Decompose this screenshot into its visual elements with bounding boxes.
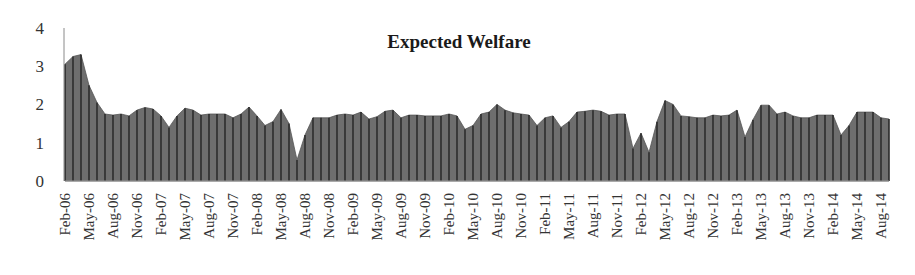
x-tick-label: May-10 — [465, 193, 481, 241]
x-tick-label: Aug-11 — [585, 193, 601, 238]
x-axis: Feb-06May-06Aug-06Nov-06Feb-07May-07Aug-… — [57, 193, 889, 241]
x-tick-label: Feb-11 — [537, 193, 553, 235]
x-tick-label: Aug-14 — [873, 193, 889, 239]
x-tick-label: Nov-11 — [609, 193, 625, 238]
x-tick-label: Aug-13 — [777, 193, 793, 239]
x-tick-label: Nov-13 — [801, 193, 817, 239]
x-tick-label: May-11 — [561, 193, 577, 240]
x-tick-label: May-12 — [657, 193, 673, 241]
x-tick-label: Aug-06 — [105, 193, 121, 239]
x-tick-label: May-07 — [177, 193, 193, 241]
x-tick-label: Feb-09 — [345, 193, 361, 236]
x-tick-label: May-08 — [273, 193, 289, 241]
x-tick-label: Nov-06 — [129, 193, 145, 239]
x-tick-label: Aug-08 — [297, 193, 313, 239]
x-tick-label: Aug-10 — [489, 193, 505, 239]
welfare-area — [65, 55, 889, 181]
x-tick-label: Aug-12 — [681, 193, 697, 239]
y-tick-label: 2 — [36, 95, 45, 114]
y-tick-label: 3 — [36, 57, 45, 76]
y-tick-label: 0 — [36, 172, 45, 191]
y-axis: 01234 — [36, 19, 45, 191]
x-tick-label: Feb-14 — [825, 193, 841, 236]
x-tick-label: May-13 — [753, 193, 769, 241]
x-tick-label: Feb-08 — [249, 193, 265, 236]
x-tick-label: Nov-09 — [417, 193, 433, 239]
chart-title: Expected Welfare — [387, 31, 530, 52]
x-tick-label: Nov-10 — [513, 193, 529, 239]
expected-welfare-chart: Expected Welfare 01234 Feb-06May-06Aug-0… — [0, 0, 915, 275]
x-tick-label: Feb-06 — [57, 193, 73, 236]
x-tick-label: Feb-10 — [441, 193, 457, 236]
x-tick-label: Feb-12 — [633, 193, 649, 236]
x-tick-label: May-09 — [369, 193, 385, 241]
y-tick-label: 4 — [36, 19, 45, 38]
y-tick-label: 1 — [36, 134, 45, 153]
x-tick-label: Nov-08 — [321, 193, 337, 239]
x-tick-label: May-06 — [81, 193, 97, 241]
x-tick-label: Feb-13 — [729, 193, 745, 236]
x-tick-label: Feb-07 — [153, 193, 169, 236]
x-tick-label: Nov-07 — [225, 193, 241, 239]
x-tick-label: Aug-09 — [393, 193, 409, 239]
x-tick-label: Aug-07 — [201, 193, 217, 239]
x-tick-label: Nov-12 — [705, 193, 721, 239]
x-tick-label: May-14 — [849, 193, 865, 241]
